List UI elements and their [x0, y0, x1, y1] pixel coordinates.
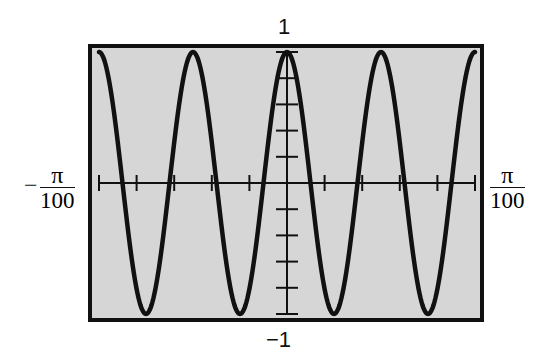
y-max-label: 1 — [278, 14, 290, 40]
x-min-sign: − — [24, 172, 38, 199]
x-max-denominator: 100 — [490, 188, 525, 212]
x-min-label: π 100 — [40, 163, 75, 212]
x-min-denominator: 100 — [40, 188, 75, 212]
x-max-label: π 100 — [490, 163, 525, 212]
plot-svg — [0, 0, 553, 364]
y-min-label: −1 — [266, 327, 291, 353]
x-min-numerator: π — [40, 163, 75, 188]
x-max-numerator: π — [490, 163, 525, 188]
